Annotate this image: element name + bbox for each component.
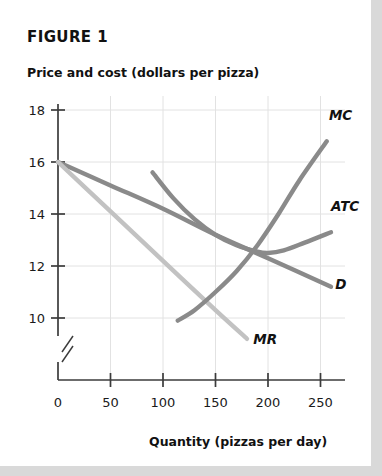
gridlines bbox=[58, 96, 345, 380]
x-axis-tick-label: 250 bbox=[308, 395, 333, 410]
x-axis-tick-label: 0 bbox=[54, 395, 62, 410]
curve-label-mr: MR bbox=[253, 331, 277, 347]
figure-page: FIGURE 1 Price and cost (dollars per piz… bbox=[0, 0, 371, 466]
x-axis-tick-label: 100 bbox=[151, 395, 176, 410]
x-axis-tick-label: 200 bbox=[256, 395, 281, 410]
y-axis-tick-label: 16 bbox=[28, 155, 45, 170]
y-axis-tick-label: 10 bbox=[28, 311, 45, 326]
y-axis-tick-label: 18 bbox=[28, 103, 45, 118]
x-axis-tick-label: 50 bbox=[102, 395, 119, 410]
chart-curves bbox=[58, 141, 331, 339]
curve-atc bbox=[153, 172, 332, 253]
axis-break-symbol bbox=[62, 336, 73, 362]
chart-plot-area: 1012141618 050100150200250 MCATCDMR bbox=[0, 0, 371, 466]
curve-mr bbox=[58, 162, 247, 339]
y-axis-tick-label: 12 bbox=[28, 259, 45, 274]
y-axis-tick-label: 14 bbox=[28, 207, 45, 222]
curve-label-d: D bbox=[335, 276, 346, 292]
curve-d bbox=[58, 162, 331, 287]
y-axis-tick-labels: 1012141618 bbox=[28, 103, 45, 326]
x-axis-tick-labels: 050100150200250 bbox=[54, 395, 333, 410]
curve-label-mc: MC bbox=[329, 107, 352, 123]
x-axis-tick-label: 150 bbox=[203, 395, 228, 410]
curve-label-atc: ATC bbox=[330, 198, 359, 214]
